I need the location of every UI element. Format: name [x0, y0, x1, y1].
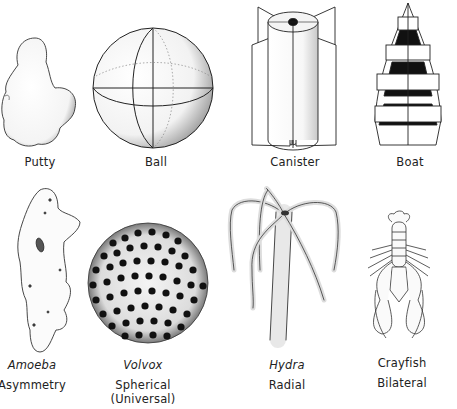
hydra-illustration: [230, 188, 338, 340]
label-boat: Boat: [396, 156, 423, 169]
label-bilateral: Bilateral: [377, 377, 427, 390]
label-radial: Radial: [269, 379, 306, 392]
volvox-illustration: [88, 223, 208, 343]
label-spherical: Spherical: [115, 379, 170, 392]
label-crayfish: Crayfish: [378, 357, 427, 370]
label-ball: Ball: [145, 156, 167, 169]
ball-illustration: [93, 28, 213, 148]
label-amoeba: Amoeba: [8, 359, 57, 372]
canister-illustration: [252, 7, 336, 150]
boat-illustration: [375, 3, 441, 145]
label-putty: Putty: [25, 156, 56, 169]
label-volvox: Volvox: [123, 359, 162, 372]
label-hydra: Hydra: [269, 359, 305, 372]
label-asymmetry: Asymmetry: [0, 379, 66, 392]
label-canister: Canister: [270, 156, 319, 169]
crayfish-illustration: [368, 211, 430, 338]
label-universal: (Universal): [111, 393, 176, 406]
symmetry-figure: [0, 0, 457, 409]
amoeba-illustration: [18, 189, 80, 352]
putty-illustration: [2, 38, 76, 146]
